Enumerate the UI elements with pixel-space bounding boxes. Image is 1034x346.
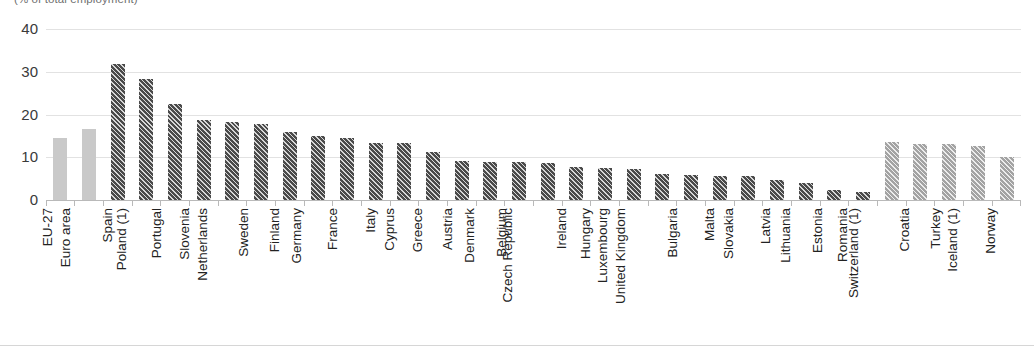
tick-mark [447, 200, 448, 206]
tick-mark [332, 200, 333, 206]
bar[interactable] [197, 120, 211, 200]
tick-mark [992, 200, 993, 206]
x-axis-label: Ireland [556, 208, 570, 249]
x-axis-ticks [46, 200, 1021, 206]
bar[interactable] [369, 143, 383, 200]
bar[interactable] [627, 169, 641, 200]
bar[interactable] [827, 190, 841, 200]
tick-mark [275, 200, 276, 206]
bar[interactable] [82, 129, 96, 200]
bar[interactable] [111, 64, 125, 200]
bar[interactable] [799, 183, 813, 200]
x-axis-label: France [326, 208, 340, 250]
bar[interactable] [483, 162, 497, 200]
tick-slot [476, 200, 505, 206]
bar[interactable] [254, 124, 268, 200]
bar-slot [103, 29, 132, 200]
bar-slot [75, 29, 104, 200]
x-axis-label: Croatia [899, 208, 913, 252]
x-axis-label: Euro area [59, 208, 73, 267]
x-axis-label: Switzerland (1) [847, 208, 861, 298]
x-axis-label: Greece [411, 208, 425, 252]
bar[interactable] [53, 138, 67, 200]
tick-slot [734, 200, 763, 206]
x-axis-label: Norway [984, 208, 998, 254]
bar-slot [648, 29, 677, 200]
bar[interactable] [885, 142, 899, 200]
tick-slot [304, 200, 333, 206]
tick-slot [877, 200, 906, 206]
x-axis-label: Malta [703, 208, 717, 241]
bar[interactable] [971, 146, 985, 200]
bar-slot [906, 29, 935, 200]
tick-mark [791, 200, 792, 206]
tick-mark [648, 200, 649, 206]
bar[interactable] [455, 161, 469, 200]
bar[interactable] [655, 174, 669, 201]
bar[interactable] [225, 122, 239, 200]
bar-slot [505, 29, 534, 200]
bar-slot [820, 29, 849, 200]
bar-slot [964, 29, 993, 200]
bar[interactable] [397, 143, 411, 200]
tick-mark [46, 200, 47, 206]
bar[interactable] [913, 144, 927, 200]
tick-slot [361, 200, 390, 206]
bar[interactable] [340, 138, 354, 200]
bar[interactable] [541, 163, 555, 200]
tick-mark [676, 200, 677, 206]
bar[interactable] [283, 132, 297, 200]
tick-mark [877, 200, 878, 206]
x-axis-label: Slovakia [723, 208, 737, 259]
tick-mark [390, 200, 391, 206]
bar[interactable] [713, 176, 727, 200]
y-tick-label: 40 [4, 21, 38, 36]
x-axis-label: United Kingdom [614, 208, 628, 304]
tick-mark [934, 200, 935, 206]
tick-slot [992, 200, 1021, 206]
bar-slot [791, 29, 820, 200]
bar[interactable] [770, 180, 784, 200]
x-axis-label: Turkey [929, 208, 943, 249]
y-tick-label: 0 [4, 192, 38, 207]
x-axis-label: EU-27 [41, 208, 55, 246]
bar[interactable] [1000, 157, 1014, 200]
x-axis-label: Cyprus [383, 208, 397, 251]
bar[interactable] [741, 176, 755, 200]
tick-mark [562, 200, 563, 206]
bar-slot [419, 29, 448, 200]
bar-slot [447, 29, 476, 200]
x-axis-label: Spain [100, 208, 114, 243]
tick-slot [189, 200, 218, 206]
bar-slot [361, 29, 390, 200]
x-axis-label: Sweden [237, 208, 251, 257]
x-label-slot: Bulgaria [677, 208, 706, 344]
tick-mark [476, 200, 477, 206]
tick-mark [218, 200, 219, 206]
bar[interactable] [168, 104, 182, 200]
tick-mark [189, 200, 190, 206]
tick-mark [103, 200, 104, 206]
tick-slot [103, 200, 132, 206]
bar[interactable] [569, 167, 583, 200]
bar-slot [877, 29, 906, 200]
x-axis-label: Iceland (1) [946, 208, 960, 272]
tick-slot [447, 200, 476, 206]
tick-mark [1020, 200, 1021, 206]
bar[interactable] [856, 192, 870, 200]
bar[interactable] [512, 162, 526, 200]
y-tick-label: 20 [4, 107, 38, 122]
tick-slot [849, 200, 878, 206]
bar[interactable] [311, 136, 325, 200]
tick-slot [75, 200, 104, 206]
tick-slot [648, 200, 677, 206]
bar[interactable] [139, 79, 153, 200]
tick-slot [419, 200, 448, 206]
bar-slot [247, 29, 276, 200]
bar[interactable] [684, 175, 698, 200]
bar[interactable] [426, 152, 440, 200]
bar-series [46, 29, 1021, 200]
bar-slot [46, 29, 75, 200]
bar[interactable] [598, 168, 612, 200]
bar[interactable] [942, 144, 956, 200]
